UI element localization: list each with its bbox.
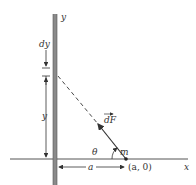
mass-point: [124, 157, 128, 161]
rod-y-label: y: [60, 12, 67, 22]
y-distance-label: y: [41, 111, 48, 121]
a-label: a: [88, 162, 93, 172]
rod: [53, 14, 57, 185]
x-axis-label: x: [184, 162, 189, 172]
theta-arc: [112, 148, 117, 159]
theta-label: θ: [92, 147, 98, 157]
point-label: (a, 0): [128, 162, 152, 172]
gravitation-rod-diagram: y dy y dF θ m a (a, 0) x: [0, 0, 196, 185]
dashed-line: [58, 76, 98, 124]
mass-label: m: [120, 147, 129, 157]
dy-label: dy: [39, 39, 51, 49]
force-label: dF: [104, 115, 117, 125]
